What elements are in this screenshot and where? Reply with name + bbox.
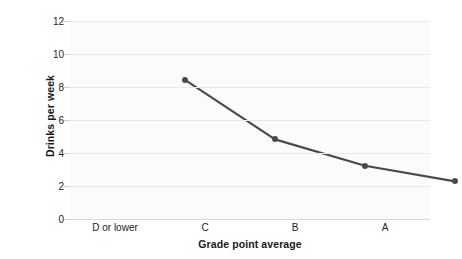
y-axis-tick-mark <box>64 153 70 154</box>
gridline <box>70 153 430 154</box>
gridline <box>70 21 430 22</box>
y-axis-title: Drinks per week <box>44 36 56 196</box>
y-axis-tick-mark <box>64 219 70 220</box>
y-axis-title-container: Drinks per week <box>18 21 32 219</box>
x-axis-tick-label: B <box>292 222 299 233</box>
gridline <box>70 219 430 220</box>
y-axis-tick-mark <box>64 186 70 187</box>
gridline <box>70 87 430 88</box>
gridline <box>70 186 430 187</box>
series-layer <box>140 42 462 240</box>
plot-area <box>70 21 430 219</box>
y-axis-tick-mark <box>64 54 70 55</box>
x-axis-tick-label: D or lower <box>92 222 138 233</box>
data-point-marker <box>272 136 278 142</box>
gridline <box>70 120 430 121</box>
y-axis-tick-mark <box>64 87 70 88</box>
gridline <box>70 54 430 55</box>
x-axis-tick-label: A <box>382 222 389 233</box>
series-line <box>185 80 455 181</box>
series-line-svg <box>140 42 462 240</box>
y-axis-tick-mark <box>64 120 70 121</box>
data-point-marker <box>362 163 368 169</box>
y-axis-tick-mark <box>64 21 70 22</box>
x-axis-title: Grade point average <box>70 238 430 250</box>
data-point-marker <box>182 77 188 83</box>
x-axis-tick-label: C <box>201 222 208 233</box>
data-point-marker <box>452 178 458 184</box>
